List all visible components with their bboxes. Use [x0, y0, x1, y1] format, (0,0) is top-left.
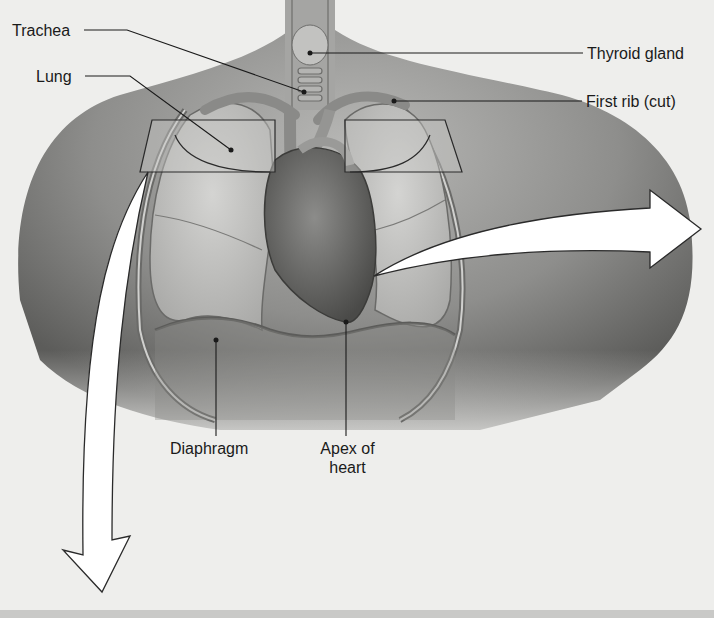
label-apex-line1: Apex of: [310, 439, 385, 458]
label-lung: Lung: [36, 67, 72, 86]
right-section-plane: [345, 120, 462, 172]
label-trachea: Trachea: [12, 21, 70, 40]
label-diaphragm: Diaphragm: [170, 439, 248, 458]
label-apex-of-heart: Apex of heart: [310, 439, 385, 477]
label-first-rib: First rib (cut): [586, 92, 676, 111]
thyroid: [292, 25, 328, 65]
label-thyroid-gland: Thyroid gland: [587, 44, 684, 63]
left-section-plane: [140, 120, 275, 172]
label-apex-line2: heart: [310, 458, 385, 477]
